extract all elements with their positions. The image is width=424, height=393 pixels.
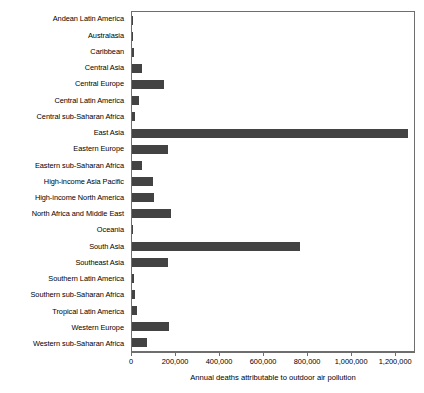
bar — [132, 258, 168, 267]
bar — [132, 112, 135, 121]
x-tick — [175, 352, 176, 356]
bar — [132, 80, 164, 89]
category-label: High-income North America — [0, 190, 128, 206]
bar-row — [132, 254, 414, 270]
bar-row — [132, 157, 414, 173]
bar — [132, 16, 133, 25]
category-label: Central sub-Saharan Africa — [0, 108, 128, 124]
x-tick — [219, 352, 220, 356]
bar — [132, 306, 137, 315]
category-label: Southern Latin America — [0, 271, 128, 287]
category-label: Tropical Latin America — [0, 303, 128, 319]
x-tick-label: 600,000 — [250, 358, 277, 365]
category-label: Western Europe — [0, 319, 128, 335]
category-label: High-income Asia Pacific — [0, 173, 128, 189]
bar-row — [132, 173, 414, 189]
bar — [132, 274, 134, 283]
plot-area — [131, 11, 415, 352]
category-label: Australasia — [0, 27, 128, 43]
bar — [132, 129, 408, 138]
category-label: North Africa and Middle East — [0, 206, 128, 222]
bar — [132, 242, 300, 251]
x-tick-label: 1,200,000 — [379, 358, 412, 365]
bar — [132, 96, 139, 105]
category-label: Oceania — [0, 222, 128, 238]
category-label: Caribbean — [0, 43, 128, 59]
x-tick — [351, 352, 352, 356]
x-tick — [395, 352, 396, 356]
bars-layer — [132, 12, 414, 351]
category-label: Western sub-Saharan Africa — [0, 336, 128, 352]
category-label: East Asia — [0, 125, 128, 141]
x-tick-label: 400,000 — [206, 358, 233, 365]
bar — [132, 48, 134, 57]
bar-row — [132, 141, 414, 157]
category-label: Central Europe — [0, 76, 128, 92]
bar — [132, 225, 133, 234]
category-label: South Asia — [0, 238, 128, 254]
category-label: Southern sub-Saharan Africa — [0, 287, 128, 303]
bar-row — [132, 77, 414, 93]
bar-row — [132, 206, 414, 222]
bar — [132, 209, 171, 218]
x-tick-label: 800,000 — [294, 358, 321, 365]
category-axis: Andean Latin AmericaAustralasiaCaribbean… — [0, 11, 128, 352]
bar-row — [132, 238, 414, 254]
bar — [132, 32, 133, 41]
bar-row — [132, 109, 414, 125]
bar — [132, 338, 147, 347]
category-label: Central Latin America — [0, 92, 128, 108]
bar-row — [132, 93, 414, 109]
bar-row — [132, 60, 414, 76]
x-axis: 0200,000400,000600,000800,0001,000,0001,… — [131, 352, 415, 353]
bar — [132, 177, 153, 186]
bar-row — [132, 125, 414, 141]
category-label: Andean Latin America — [0, 11, 128, 27]
bar — [132, 145, 168, 154]
bar-row — [132, 28, 414, 44]
bar-row — [132, 335, 414, 351]
bar-row — [132, 286, 414, 302]
category-label: Southeast Asia — [0, 255, 128, 271]
bar — [132, 290, 135, 299]
x-axis-title: Annual deaths attributable to outdoor ai… — [131, 374, 415, 382]
bar-row — [132, 222, 414, 238]
category-label: Eastern Europe — [0, 141, 128, 157]
bar-row — [132, 190, 414, 206]
bar-row — [132, 303, 414, 319]
x-tick-label: 1,000,000 — [335, 358, 368, 365]
x-tick — [307, 352, 308, 356]
category-label: Eastern sub-Saharan Africa — [0, 157, 128, 173]
bar — [132, 193, 154, 202]
bar-row — [132, 12, 414, 28]
bar — [132, 64, 142, 73]
bar-chart: Andean Latin AmericaAustralasiaCaribbean… — [0, 0, 424, 393]
bar-row — [132, 44, 414, 60]
bar — [132, 322, 169, 331]
bar — [132, 161, 142, 170]
bar-row — [132, 319, 414, 335]
x-tick — [131, 352, 132, 356]
bar-row — [132, 270, 414, 286]
x-tick — [263, 352, 264, 356]
x-tick-label: 0 — [129, 358, 133, 365]
x-tick-label: 200,000 — [162, 358, 189, 365]
category-label: Central Asia — [0, 60, 128, 76]
